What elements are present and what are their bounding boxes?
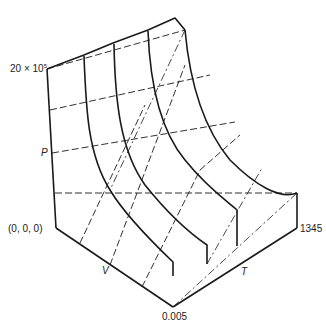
isobar-3 [52,122,235,153]
temperature-axis-label: T [241,267,247,277]
projection-diagonal-3 [207,168,262,264]
origin-label: (0, 0, 0) [8,224,42,234]
pressure-max-label: 20 × 105 [10,63,47,74]
isochore-2 [110,65,185,265]
isotherm-1 [84,56,173,276]
pvt-surface-diagram [0,0,326,327]
pressure-axis-label: P [41,148,48,158]
pressure-axis-edge [47,69,56,228]
volume-axis-edge [56,228,173,307]
volume-max-label: 0.005 [162,312,187,322]
isotherm-3 [148,31,237,246]
temperature-axis-edge [173,228,297,307]
isobar-top [47,30,185,69]
top-edge [47,18,185,69]
isotherm-2 [114,44,207,264]
isotherm-4 [185,30,297,195]
projection-diagonal-2 [173,193,297,307]
temperature-max-label: 1345 [300,224,322,234]
volume-axis-label: V [102,266,109,276]
isobar-2 [50,75,210,110]
isochore-3 [142,170,200,287]
